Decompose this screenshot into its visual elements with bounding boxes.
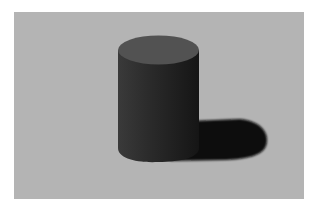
cylinder-scene xyxy=(0,0,316,208)
cylinder-body xyxy=(118,50,199,162)
cylinder-top xyxy=(118,36,199,65)
